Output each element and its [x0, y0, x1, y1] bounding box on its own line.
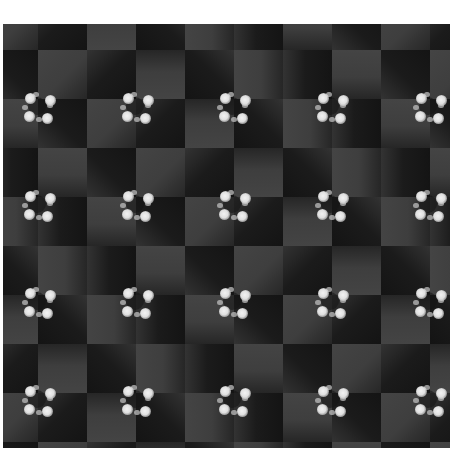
dot-cluster: [411, 284, 445, 318]
white-dot: [338, 388, 349, 399]
white-dot: [415, 404, 426, 415]
dot-cluster: [215, 187, 249, 221]
white-dot: [25, 386, 36, 397]
checker-tile: [38, 24, 87, 50]
white-dot: [436, 193, 447, 204]
white-dot: [338, 290, 349, 301]
checker-tile: [185, 442, 234, 448]
white-dot: [219, 111, 230, 122]
white-dot: [122, 306, 133, 317]
white-dot: [122, 404, 133, 415]
white-dot: [240, 290, 251, 301]
white-dot: [335, 211, 346, 222]
checker-tile: [332, 24, 381, 50]
white-dot: [237, 211, 248, 222]
white-dot: [318, 288, 329, 299]
dot-cluster: [20, 382, 54, 416]
white-dot: [45, 290, 56, 301]
white-dot: [237, 113, 248, 124]
white-dot: [436, 95, 447, 106]
white-dot: [220, 288, 231, 299]
dot-tail: [217, 300, 223, 305]
checker-tile: [38, 442, 87, 448]
white-dot: [415, 111, 426, 122]
white-dot: [317, 404, 328, 415]
white-dot: [122, 209, 133, 220]
dot-tail: [217, 105, 223, 110]
white-dot: [335, 308, 346, 319]
white-dot: [143, 95, 154, 106]
dot-cluster: [118, 284, 152, 318]
white-dot: [45, 388, 56, 399]
dot-cluster: [215, 382, 249, 416]
white-dot: [42, 406, 53, 417]
dot-tail: [120, 398, 126, 403]
white-dot: [24, 111, 35, 122]
white-dot: [42, 211, 53, 222]
white-dot: [143, 388, 154, 399]
white-dot: [143, 290, 154, 301]
white-dot: [24, 306, 35, 317]
dot-cluster: [118, 187, 152, 221]
white-dot: [25, 93, 36, 104]
dot-tail: [413, 300, 419, 305]
dot-cluster: [313, 187, 347, 221]
white-dot: [415, 209, 426, 220]
dot-cluster: [313, 382, 347, 416]
white-dot: [140, 113, 151, 124]
checker-tile: [430, 442, 450, 448]
white-dot: [335, 113, 346, 124]
white-dot: [416, 386, 427, 397]
white-dot: [240, 193, 251, 204]
dot-cluster: [411, 89, 445, 123]
checker-tile: [381, 442, 430, 448]
checker-tile: [136, 24, 185, 50]
white-dot: [433, 308, 444, 319]
dot-tail: [120, 203, 126, 208]
dot-cluster: [411, 382, 445, 416]
white-dot: [122, 111, 133, 122]
white-dot: [140, 406, 151, 417]
white-dot: [220, 93, 231, 104]
white-dot: [42, 308, 53, 319]
dot-tail: [22, 105, 28, 110]
dot-cluster: [20, 187, 54, 221]
white-dot: [219, 404, 230, 415]
white-dot: [240, 388, 251, 399]
dot-cluster: [118, 89, 152, 123]
white-dot: [416, 191, 427, 202]
white-dot: [433, 406, 444, 417]
white-dot: [24, 404, 35, 415]
dot-cluster: [118, 382, 152, 416]
white-dot: [240, 95, 251, 106]
white-dot: [42, 113, 53, 124]
white-dot: [140, 211, 151, 222]
white-dot: [24, 209, 35, 220]
checker-tile: [3, 442, 38, 448]
checker-tile: [3, 24, 38, 50]
white-dot: [335, 406, 346, 417]
dot-tail: [413, 398, 419, 403]
white-dot: [415, 306, 426, 317]
white-dot: [318, 386, 329, 397]
dot-tail: [413, 203, 419, 208]
white-dot: [433, 211, 444, 222]
dot-tail: [315, 398, 321, 403]
white-dot: [123, 288, 134, 299]
dot-tail: [315, 203, 321, 208]
white-dot: [220, 386, 231, 397]
dot-tail: [315, 105, 321, 110]
white-dot: [237, 406, 248, 417]
dot-tail: [22, 398, 28, 403]
dot-tail: [22, 203, 28, 208]
white-dot: [45, 95, 56, 106]
dot-tail: [22, 300, 28, 305]
white-dot: [219, 306, 230, 317]
dot-cluster: [20, 89, 54, 123]
white-dot: [317, 111, 328, 122]
dot-cluster: [215, 89, 249, 123]
white-dot: [436, 388, 447, 399]
dot-cluster: [411, 187, 445, 221]
checker-tile: [283, 442, 332, 448]
checker-tile: [87, 442, 136, 448]
